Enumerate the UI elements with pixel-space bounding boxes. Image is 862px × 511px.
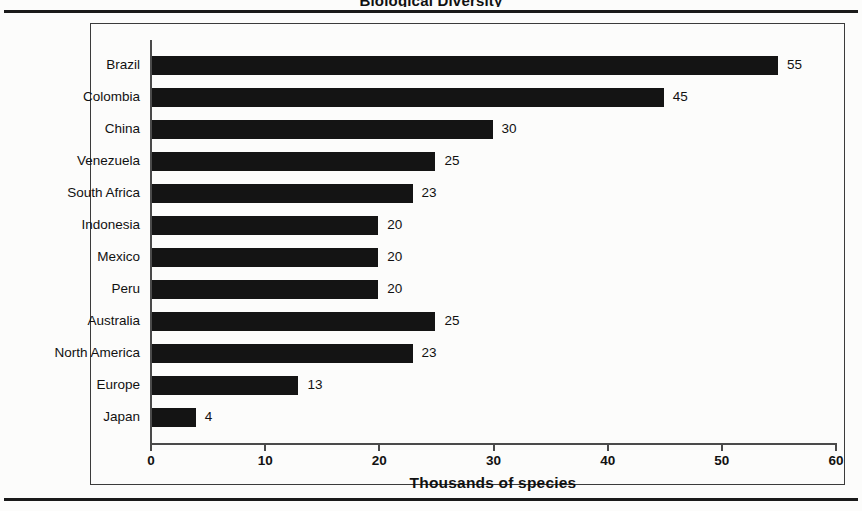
bar xyxy=(150,152,435,171)
bar-track xyxy=(150,344,413,363)
bar-track xyxy=(150,88,664,107)
bar-row: China30 xyxy=(0,114,862,146)
bar-row: South Africa23 xyxy=(0,178,862,210)
bar-value-label: 23 xyxy=(422,345,437,360)
bar-row: Indonesia20 xyxy=(0,210,862,242)
bar-value-label: 20 xyxy=(387,249,402,264)
bar-value-label: 25 xyxy=(444,153,459,168)
category-label: Venezuela xyxy=(77,153,140,168)
x-tick xyxy=(264,443,266,451)
bar-value-label: 20 xyxy=(387,217,402,232)
bar-value-label: 13 xyxy=(307,377,322,392)
x-tick-label: 40 xyxy=(600,453,615,468)
category-label: Brazil xyxy=(106,57,140,72)
bar-track xyxy=(150,312,435,331)
bar-track xyxy=(150,280,378,299)
bar-track xyxy=(150,120,493,139)
bar-track xyxy=(150,184,413,203)
bar-row: Mexico20 xyxy=(0,242,862,274)
bar-value-label: 23 xyxy=(422,185,437,200)
x-axis-title: Thousands of species xyxy=(150,474,836,492)
x-tick xyxy=(493,443,495,451)
y-axis-line xyxy=(150,40,152,444)
x-tick-label: 30 xyxy=(486,453,501,468)
bar-row: Peru20 xyxy=(0,274,862,306)
bar-value-label: 55 xyxy=(787,57,802,72)
bar-row: Europe13 xyxy=(0,370,862,402)
bar xyxy=(150,376,298,395)
bar xyxy=(150,248,378,267)
bar-track xyxy=(150,152,435,171)
bar xyxy=(150,184,413,203)
x-tick-label: 0 xyxy=(147,453,155,468)
bar-value-label: 4 xyxy=(205,409,213,424)
bar-track xyxy=(150,376,298,395)
x-tick-label: 50 xyxy=(714,453,729,468)
bar-row: North America23 xyxy=(0,338,862,370)
bar-rows-container: Brazil55Colombia45China30Venezuela25Sout… xyxy=(0,50,862,434)
x-tick xyxy=(378,443,380,451)
category-label: Peru xyxy=(111,281,140,296)
bar xyxy=(150,408,196,427)
category-label: Japan xyxy=(103,409,140,424)
category-label: Europe xyxy=(96,377,140,392)
bar-row: Brazil55 xyxy=(0,50,862,82)
bar-chart: Brazil55Colombia45China30Venezuela25Sout… xyxy=(0,0,862,511)
bar xyxy=(150,56,778,75)
chart-page: Biological Diversity Brazil55Colombia45C… xyxy=(0,0,862,511)
category-label: Colombia xyxy=(83,89,140,104)
bar-track xyxy=(150,408,196,427)
bar-value-label: 30 xyxy=(502,121,517,136)
x-tick-label: 10 xyxy=(258,453,273,468)
bar-row: Colombia45 xyxy=(0,82,862,114)
bar xyxy=(150,312,435,331)
x-tick xyxy=(607,443,609,451)
x-tick xyxy=(721,443,723,451)
category-label: Mexico xyxy=(97,249,140,264)
bar xyxy=(150,88,664,107)
category-label: Australia xyxy=(87,313,140,328)
bar-value-label: 20 xyxy=(387,281,402,296)
bar xyxy=(150,216,378,235)
bar xyxy=(150,280,378,299)
category-label: South Africa xyxy=(67,185,140,200)
bar-row: Australia25 xyxy=(0,306,862,338)
x-tick-label: 60 xyxy=(828,453,843,468)
x-tick xyxy=(835,443,837,451)
bar-track xyxy=(150,56,778,75)
bar xyxy=(150,120,493,139)
category-label: China xyxy=(105,121,140,136)
bar-value-label: 25 xyxy=(444,313,459,328)
bar xyxy=(150,344,413,363)
bar-track xyxy=(150,216,378,235)
x-tick-label: 20 xyxy=(372,453,387,468)
category-label: North America xyxy=(54,345,140,360)
category-label: Indonesia xyxy=(81,217,140,232)
bar-track xyxy=(150,248,378,267)
bar-value-label: 45 xyxy=(673,89,688,104)
x-tick xyxy=(150,443,152,451)
bar-row: Venezuela25 xyxy=(0,146,862,178)
bar-row: Japan4 xyxy=(0,402,862,434)
